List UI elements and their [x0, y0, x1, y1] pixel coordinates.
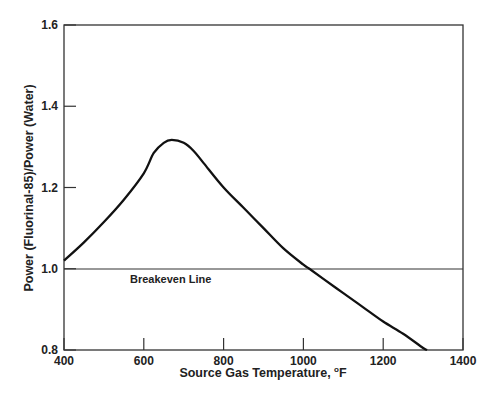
- y-tick-label: 1.6: [41, 18, 58, 32]
- y-tick-label: 1.2: [41, 181, 58, 195]
- x-axis: 400600800100012001400: [54, 338, 477, 368]
- y-tick-label: 1.4: [41, 99, 58, 113]
- x-tick-label: 400: [54, 354, 74, 368]
- x-tick-label: 1200: [370, 354, 397, 368]
- power-ratio-chart: 0.81.01.21.41.6 400600800100012001400 Br…: [0, 0, 481, 396]
- x-tick-label: 1400: [450, 354, 477, 368]
- breakeven-label: Breakeven Line: [130, 273, 211, 285]
- power-ratio-curve: [64, 140, 427, 350]
- x-tick-label: 600: [134, 354, 154, 368]
- x-axis-label: Source Gas Temperature, oF: [179, 365, 347, 380]
- y-axis-label: Power (Fluorinal-85)/Power (Water): [22, 84, 36, 291]
- y-tick-label: 1.0: [41, 262, 58, 276]
- plot-frame: [64, 25, 463, 350]
- y-axis: 0.81.01.21.41.6: [41, 18, 76, 357]
